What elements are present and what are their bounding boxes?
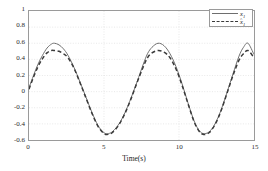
legend-item-x1: x1 [212, 10, 252, 18]
legend-label-x1hat: ^x1 [240, 18, 245, 29]
x-tick-label: 0 [18, 144, 38, 151]
y-tick-label: -0.6 [0, 137, 25, 144]
y-tick-label: 0.4 [0, 55, 25, 62]
x-tick-label: 10 [169, 144, 189, 151]
y-tick-label: 0 [0, 88, 25, 95]
x-tick-label: 15 [245, 144, 265, 151]
y-tick-label: 1 [0, 6, 25, 13]
figure-canvas: 10.80.60.40.20-0.2-0.4-0.6 051015 Time(s… [0, 0, 268, 171]
y-tick-label: -0.2 [0, 104, 25, 111]
y-tick-label: 0.6 [0, 39, 25, 46]
y-tick-label: 0.8 [0, 22, 25, 29]
x-axis-label: Time(s) [0, 154, 268, 163]
legend-line-sample-solid [212, 13, 238, 16]
series-lines [29, 11, 254, 140]
legend: x1 ^x1 [209, 9, 253, 27]
series-line-x1hat [29, 50, 254, 134]
y-tick-label: 0.2 [0, 72, 25, 79]
plot-area [28, 10, 255, 141]
series-line-x1 [29, 43, 254, 134]
y-tick-label: -0.4 [0, 121, 25, 128]
legend-item-x1hat: ^x1 [212, 18, 252, 26]
legend-line-sample-dashed [212, 21, 238, 24]
x-tick-label: 5 [94, 144, 114, 151]
